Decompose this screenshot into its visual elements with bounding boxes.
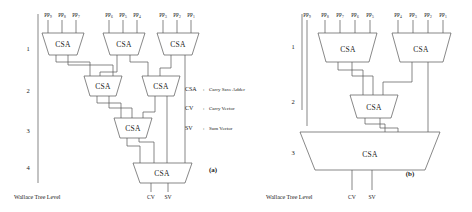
csa-a-L1-1[interactable]: CSA (42, 33, 84, 55)
caption-a: (a) (209, 166, 218, 174)
output-sv-a: SV (164, 194, 171, 200)
legend: CSA : Carry Save Adder CV : Carry Vector… (185, 86, 245, 131)
wallace-tree-figure: 1 2 3 4 PP9 PP8 PP7 PP6 PP5 PP4 PP3 PP2 … (0, 0, 472, 212)
level-number-b-3: 3 (291, 149, 294, 156)
outputs-b: CV SV (348, 170, 375, 200)
pp-label-b-6: PP6 (351, 12, 359, 19)
csa-label: CSA (153, 82, 169, 91)
wallace-tree-level-label-a: Wallace Tree Level (14, 194, 61, 200)
csa-a-L3-1[interactable]: CSA (114, 118, 152, 138)
pp-label-b-9: PP9 (303, 12, 311, 19)
level-number-b-2: 2 (291, 98, 294, 105)
wiring-b-l1-l2 (338, 62, 428, 132)
legend-value-cv: Carry Vector (209, 106, 235, 111)
pp-label-a-3: PP3 (159, 12, 167, 19)
csa-label: CSA (116, 40, 132, 49)
csa-a-L2-1[interactable]: CSA (84, 76, 122, 96)
csa-b-L1-1[interactable]: CSA (318, 33, 377, 62)
level-number-a-2: 2 (26, 87, 29, 94)
wallace-tree-level-label-b: Wallace Tree Level (266, 194, 313, 200)
pp-label-b-3: PP3 (409, 12, 417, 19)
wiring-a-l3-l4 (127, 138, 167, 163)
csa-label: CSA (95, 82, 111, 91)
csa-a-L1-2[interactable]: CSA (103, 33, 145, 55)
pp-label-b-1: PP1 (439, 12, 447, 19)
csa-a-L1-3[interactable]: CSA (157, 33, 199, 55)
pp-label-a-6: PP6 (105, 12, 113, 19)
legend-sep-csa: : (203, 87, 204, 92)
pp-label-b-2: PP2 (424, 12, 432, 19)
csa-label: CSA (170, 40, 186, 49)
csa-b-L3-1[interactable]: CSA (300, 132, 440, 170)
outputs-a: CV SV (147, 183, 171, 200)
input-group-b-1: PP8 PP7 PP6 PP5 (321, 12, 374, 33)
wiring-a-l1-l2 (56, 55, 185, 163)
input-group-a-2: PP6 PP5 PP4 (105, 12, 141, 33)
legend-key-csa: CSA (185, 86, 197, 92)
csa-label: CSA (362, 150, 378, 159)
pp-label-a-9: PP9 (44, 12, 52, 19)
pp-label-a-7: PP7 (72, 12, 80, 19)
input-group-a-3: PP3 PP2 PP1 (159, 12, 195, 33)
pp-label-b-7: PP7 (336, 12, 344, 19)
csa-b-L1-2[interactable]: CSA (392, 33, 451, 62)
pp-label-a-5: PP5 (119, 12, 127, 19)
caption-b: (b) (406, 170, 415, 178)
level-number-b-1: 1 (291, 43, 294, 50)
csa-label: CSA (413, 45, 429, 54)
level-number-a-4: 4 (26, 164, 30, 171)
pp-label-a-4: PP4 (133, 12, 141, 19)
csa-label: CSA (55, 40, 71, 49)
pp-label-b-8: PP8 (321, 12, 329, 19)
pp-label-b-4: PP4 (394, 12, 402, 19)
input-group-b-2: PP4 PP3 PP2 PP1 (394, 12, 447, 33)
output-cv-b: CV (348, 194, 356, 200)
input-group-a-1: PP9 PP8 PP7 (44, 12, 80, 33)
csa-a-L2-2[interactable]: CSA (142, 76, 180, 96)
figure-canvas: 1 2 3 4 PP9 PP8 PP7 PP6 PP5 PP4 PP3 PP2 … (0, 0, 472, 212)
legend-sep-cv: : (203, 106, 204, 111)
csa-label: CSA (125, 124, 141, 133)
csa-b-L2-1[interactable]: CSA (350, 95, 398, 118)
legend-key-sv: SV (185, 125, 193, 131)
diagram-b: 1 2 3 PP9 PP8 PP7 PP6 PP5 PP4 PP3 PP2 PP… (266, 12, 451, 200)
legend-value-sv: Sum Vector (209, 126, 233, 131)
wiring-b-l2-l3 (365, 118, 428, 132)
pp-label-a-1: PP1 (187, 12, 195, 19)
pp-label-a-8: PP8 (58, 12, 66, 19)
output-cv-a: CV (147, 194, 155, 200)
level-number-a-1: 1 (26, 45, 29, 52)
legend-key-cv: CV (185, 105, 194, 111)
legend-sep-sv: : (203, 126, 204, 131)
csa-a-L4-1[interactable]: CSA (133, 163, 192, 183)
csa-label: CSA (366, 103, 382, 112)
csa-label: CSA (154, 169, 170, 178)
level-number-a-3: 3 (26, 127, 29, 134)
pp-label-a-2: PP2 (173, 12, 181, 19)
input-standalone-b: PP9 (303, 12, 311, 126)
output-sv-b: SV (368, 194, 375, 200)
csa-label: CSA (340, 45, 356, 54)
pp-label-b-5: PP5 (366, 12, 374, 19)
legend-value-csa: Carry Save Adder (209, 87, 245, 92)
